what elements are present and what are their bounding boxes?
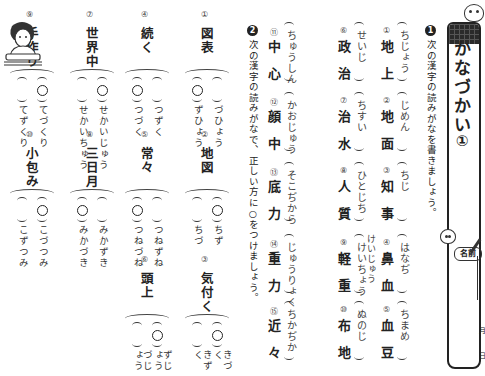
choice-open-paren [212,77,222,84]
open-paren [284,162,294,169]
choice-option[interactable]: てずくり [18,105,28,149]
choice-option[interactable]: ずじょう [153,350,172,376]
item-kanji: 知事 [380,180,393,234]
choice-open-paren [132,322,142,329]
item-kanji: 軽重 [337,252,350,306]
item-kanji: 鼻血 [380,252,393,306]
reading-answer[interactable]: じめん [398,100,408,133]
close-paren [397,214,407,221]
choice-open-paren [152,197,162,204]
close-paren [397,74,407,81]
reading-answer[interactable]: ぬのじ [355,309,365,342]
item-kanji: 常々 [139,147,152,175]
close-paren [284,74,294,81]
choice-close-paren [152,95,162,102]
reading-answer[interactable]: ひとじち [355,170,365,214]
item-kanji: 重力 [267,252,280,306]
choice-option[interactable]: ちづ [193,225,203,247]
choice-option[interactable]: きずく [193,350,212,376]
choice-open-paren [152,322,162,329]
choice-open-paren [97,197,107,204]
choice-open-paren [192,197,202,204]
item-number: ⑥ [340,26,347,35]
open-paren [354,92,364,99]
item-number: ⑪ [270,26,278,37]
choice-open-paren [132,77,142,84]
choice-option[interactable]: つねずね [153,225,163,269]
section1-badge: 1 [425,25,436,36]
item-kanji: 政治 [337,40,350,94]
item-kanji: 布地 [337,319,350,373]
choice-option[interactable]: づひょう [213,105,223,149]
choice-brace [10,69,54,78]
reading-answer[interactable]: はなぢ [398,242,408,275]
item-number: ② [201,130,208,139]
choice-option[interactable]: つずく [153,105,163,138]
reading-answer[interactable]: ちじ [398,170,408,192]
reading-answer[interactable]: ちかぢか [285,309,295,353]
reading-answer[interactable]: ちじょう [398,30,408,74]
choice-option[interactable]: きづく [213,350,232,376]
open-paren [354,234,364,241]
open-paren [354,22,364,29]
month-label[interactable]: 月 [478,327,485,334]
close-paren [354,286,364,293]
small-mascot-icon [440,229,456,244]
item-kanji: 気付く [199,272,212,314]
choice-option[interactable]: こづつみ [38,225,48,269]
choice-brace [70,189,114,198]
close-paren [284,286,294,293]
choice-option[interactable]: せかいじゅう [98,105,108,171]
choice-close-paren [212,95,222,102]
item-number: ⑤ [141,130,148,139]
open-paren [284,234,294,241]
section2-badge: 2 [247,25,258,36]
item-number: ⑫ [270,96,278,107]
choice-open-paren [77,197,87,204]
choice-open-paren [152,77,162,84]
reading-answer[interactable]: ちすい [355,100,365,133]
item-number: ④ [383,238,390,247]
item-number: ⑦ [340,96,347,105]
choice-option[interactable]: こずつみ [18,225,28,269]
choice-option[interactable]: ちず [213,225,223,247]
choice-brace [125,189,169,198]
choice-option[interactable]: ずひょう [193,105,203,149]
close-paren [397,144,407,151]
reading-answer[interactable]: せいじ [355,30,365,63]
open-paren [354,301,364,308]
item-kanji: 近々 [267,319,280,373]
open-paren [284,301,294,308]
close-paren [284,214,294,221]
choice-option[interactable]: みかずき [98,225,108,269]
item-kanji: 続く [139,27,152,55]
choice-close-paren [152,215,162,222]
item-number: ⑧ [340,166,347,175]
open-paren [397,234,407,241]
item-kanji: 頭上 [139,272,152,300]
reading-answer[interactable]: じゅうりょく [285,242,295,308]
choice-open-paren [17,197,27,204]
choice-close-paren [37,95,47,102]
item-number: ⑩ [26,130,33,139]
item-number: ② [383,96,390,105]
choice-open-paren [132,197,142,204]
item-kanji: 治水 [337,110,350,164]
day-label[interactable]: 日 [478,352,485,359]
choice-open-paren [97,77,107,84]
item-kanji: 血豆 [380,319,393,373]
choice-open-paren [37,197,47,204]
item-number: ⑤ [383,305,390,314]
choice-brace [70,69,114,78]
choice-option[interactable]: づじょう [133,350,152,376]
choice-option[interactable]: てづくり [38,105,48,149]
item-kanji: 図表 [199,27,212,55]
item-number: ③ [201,255,208,264]
open-paren [397,162,407,169]
choice-close-paren [17,95,27,102]
choice-brace [185,314,229,323]
reading-answer[interactable]: ちまめ [398,309,408,342]
choice-option[interactable]: みかづき [78,225,88,269]
item-number: ⑧ [86,130,93,139]
item-number: ① [383,26,390,35]
